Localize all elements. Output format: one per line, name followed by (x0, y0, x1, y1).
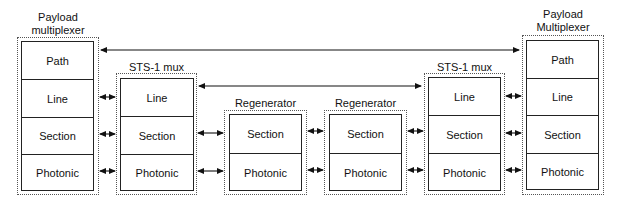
connection-arrows (0, 0, 620, 208)
